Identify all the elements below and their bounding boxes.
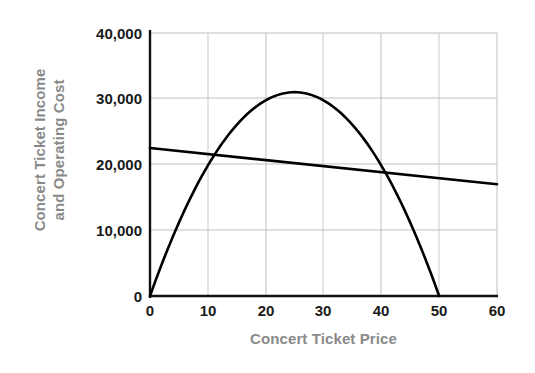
chart-container: Concert Ticket Income and Operating Cost… (0, 0, 535, 373)
x-tick-label: 10 (200, 302, 217, 319)
x-tick-label: 20 (258, 302, 275, 319)
x-tick-label: 50 (431, 302, 448, 319)
x-axis-title: Concert Ticket Price (150, 330, 497, 347)
x-tick-label: 30 (315, 302, 332, 319)
x-axis-tick-labels: 0 10 20 30 40 50 60 (0, 0, 535, 373)
x-tick-label: 40 (373, 302, 390, 319)
x-tick-label: 60 (489, 302, 506, 319)
x-tick-label: 0 (146, 302, 154, 319)
